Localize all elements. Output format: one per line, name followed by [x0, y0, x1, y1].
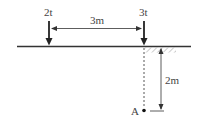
load-arrow-3t: [141, 21, 148, 46]
dimension-label-2m: 2m: [165, 75, 179, 86]
load-arrow-2t: [46, 21, 53, 46]
load-label-2t: 2t: [44, 7, 53, 18]
point-label-a: A: [131, 106, 139, 117]
ground-hatch: [145, 48, 176, 53]
point-a-dot: [142, 109, 146, 113]
load-label-3t: 3t: [139, 7, 148, 18]
load-diagram: 2t 3t 3m 2m A: [0, 0, 202, 125]
dimension-label-3m: 3m: [90, 15, 104, 26]
